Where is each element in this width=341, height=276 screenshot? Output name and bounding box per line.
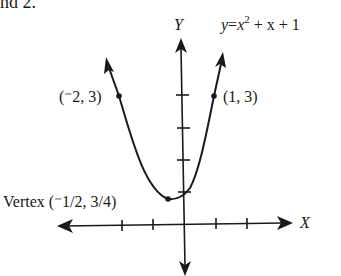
equation-label: y=x2 + x + 1: [221, 14, 300, 33]
point-label-neg2-3: (⁻2, 3): [59, 89, 102, 105]
y-axis: [181, 48, 185, 266]
parabola-curve: [109, 64, 221, 199]
point-label-1-3: (1, 3): [223, 89, 258, 105]
y-axis-label: Y: [174, 17, 183, 33]
vertex-label: Vertex (⁻1/2, 3/4): [3, 194, 116, 210]
vertex-point: [165, 196, 171, 202]
arrowheads: [57, 38, 293, 276]
point-1-3: [211, 93, 217, 99]
x-axis: [64, 223, 284, 226]
parabola-graph: [0, 0, 341, 276]
curve-left-arrow-icon: [104, 57, 114, 74]
x-axis-label: X: [300, 215, 310, 231]
point-neg2-3: [116, 93, 122, 99]
